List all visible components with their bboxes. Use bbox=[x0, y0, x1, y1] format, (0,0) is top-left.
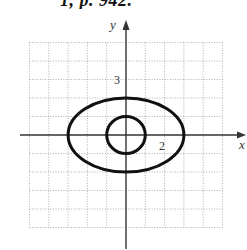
y-axis-arrow-icon bbox=[123, 20, 130, 30]
y-tick-label-3: 3 bbox=[114, 73, 120, 87]
y-axis-label: y bbox=[108, 17, 116, 32]
graph: x y 3 2 bbox=[0, 0, 247, 250]
x-axis-label: x bbox=[238, 137, 245, 152]
x-tick-label-2: 2 bbox=[159, 139, 165, 153]
